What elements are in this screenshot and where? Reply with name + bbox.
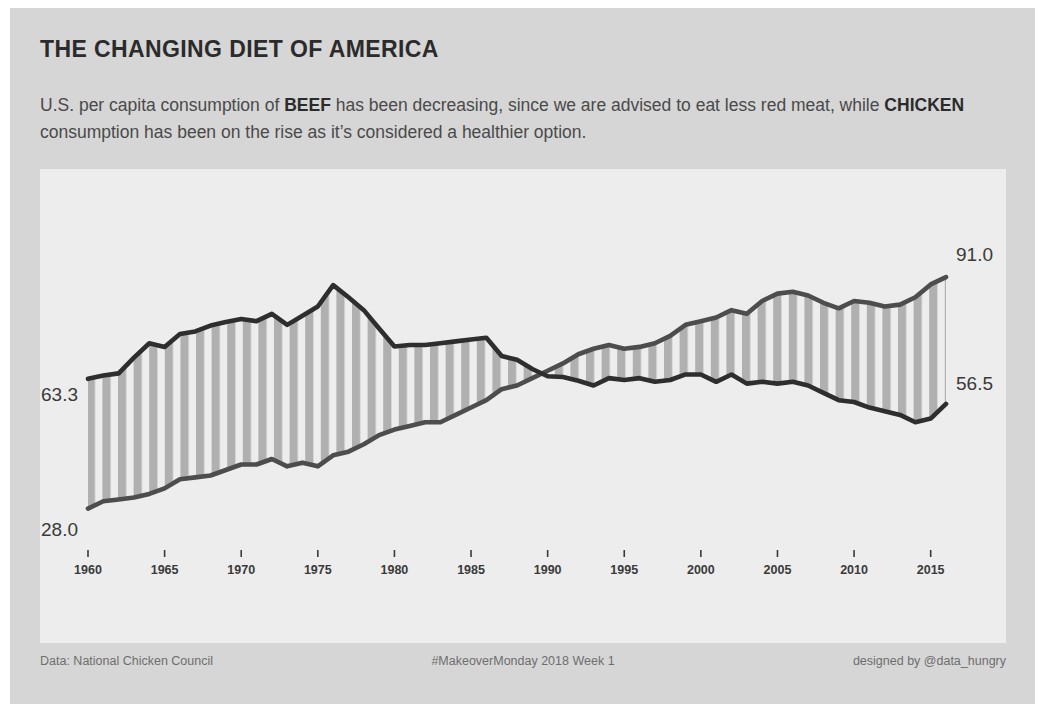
x-axis-tick-label: 1960 <box>74 563 102 577</box>
footer: Data: National Chicken Council #Makeover… <box>40 654 1006 682</box>
x-axis-tick-label: 2015 <box>917 563 945 577</box>
subtitle-highlight-beef: BEEF <box>284 95 331 115</box>
subtitle-text-2: has been decreasing, since we are advise… <box>331 95 885 115</box>
footer-credit: designed by @data_hungry <box>853 654 1006 668</box>
chicken-start-value-label: 28.0 <box>41 519 78 540</box>
x-axis-tick-label: 1965 <box>151 563 179 577</box>
chart-panel: 1960196519701975198019851990199520002005… <box>40 169 1006 643</box>
page-title: THE CHANGING DIET OF AMERICA <box>40 36 439 63</box>
beef-end-value-label: 56.5 <box>956 373 993 394</box>
x-axis-tick-label: 1975 <box>304 563 332 577</box>
beef-start-value-label: 63.3 <box>41 384 78 405</box>
subtitle-highlight-chicken: CHICKEN <box>884 95 964 115</box>
line-chart: 1960196519701975198019851990199520002005… <box>40 169 1006 643</box>
x-axis-tick-label: 1995 <box>610 563 638 577</box>
subtitle: U.S. per capita consumption of BEEF has … <box>40 92 990 146</box>
infographic-card: THE CHANGING DIET OF AMERICA U.S. per ca… <box>10 8 1035 704</box>
x-axis-tick-label: 2010 <box>840 563 868 577</box>
x-axis-tick-label: 1970 <box>227 563 255 577</box>
x-axis-tick-label: 1980 <box>381 563 409 577</box>
chicken-end-value-label: 91.0 <box>956 244 993 265</box>
x-axis-tick-label: 2000 <box>687 563 715 577</box>
x-axis-tick-label: 1990 <box>534 563 562 577</box>
x-axis-tick-label: 1985 <box>457 563 485 577</box>
x-axis-tick-label: 2005 <box>764 563 792 577</box>
subtitle-text-1: U.S. per capita consumption of <box>40 95 284 115</box>
x-axis-ticks: 1960196519701975198019851990199520002005… <box>74 550 945 577</box>
subtitle-text-3: consumption has been on the rise as it’s… <box>40 122 586 142</box>
